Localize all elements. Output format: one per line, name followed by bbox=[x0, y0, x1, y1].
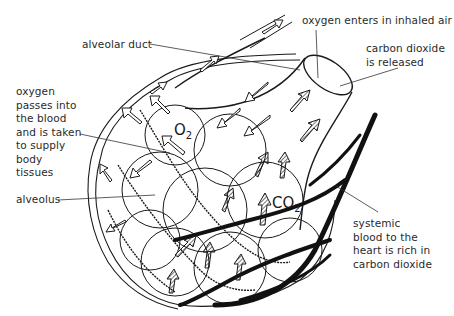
alveolus-diagram: O2 CO2 oxygen enters in inhaled air carb… bbox=[0, 0, 454, 316]
label-systemic-blood-line-4: carbon dioxide bbox=[353, 258, 432, 272]
o2-subscript: 2 bbox=[186, 130, 192, 141]
label-systemic-blood: systemic blood to the heart is rich in c… bbox=[353, 217, 432, 271]
o2-label: O2 bbox=[174, 121, 192, 141]
label-oxygen-passes-line-5: to supply bbox=[16, 139, 81, 153]
co2-label: CO2 bbox=[272, 194, 301, 214]
o2-symbol: O bbox=[174, 121, 186, 139]
leader-oxygen-enters bbox=[316, 30, 318, 78]
leader-systemic-blood bbox=[336, 186, 378, 212]
label-oxygen-passes-line-7: tissues bbox=[16, 166, 81, 180]
co2-symbol: CO bbox=[272, 194, 294, 212]
label-oxygen-passes-line-4: and is taken bbox=[16, 126, 81, 140]
label-co2-released: carbon dioxide is released bbox=[366, 42, 445, 69]
label-oxygen-enters: oxygen enters in inhaled air bbox=[302, 14, 452, 28]
label-systemic-blood-line-2: blood to the bbox=[353, 231, 432, 245]
label-systemic-blood-line-3: heart is rich in bbox=[353, 244, 432, 258]
label-alveolus: alveolus bbox=[16, 193, 60, 207]
leader-alveolar-duct bbox=[150, 44, 300, 70]
label-oxygen-passes-line-2: passes into bbox=[16, 99, 81, 113]
label-co2-released-line-1: carbon dioxide bbox=[366, 42, 445, 56]
label-oxygen-passes-line-6: body bbox=[16, 153, 81, 167]
label-co2-released-line-2: is released bbox=[366, 56, 445, 70]
co2-subscript: 2 bbox=[294, 203, 300, 214]
label-oxygen-passes: oxygen passes into the blood and is take… bbox=[16, 85, 81, 180]
label-systemic-blood-line-1: systemic bbox=[353, 217, 432, 231]
label-oxygen-passes-line-1: oxygen bbox=[16, 85, 81, 99]
label-alveolar-duct: alveolar duct bbox=[82, 38, 152, 52]
label-oxygen-passes-line-3: the blood bbox=[16, 112, 81, 126]
